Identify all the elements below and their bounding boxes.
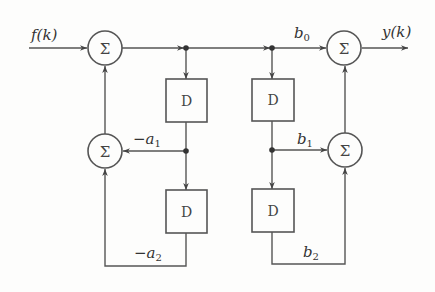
delay-label: D bbox=[267, 203, 278, 219]
junction-dot bbox=[183, 45, 189, 51]
coef-a2-label: −a2 bbox=[134, 244, 162, 263]
junction-dot bbox=[269, 147, 275, 153]
delay-label: D bbox=[267, 92, 278, 108]
coef-a1-label: −a1 bbox=[133, 130, 161, 149]
block-diagram: Σ Σ Σ Σ D D D D f(k) y(k) −a1 −a2 b0 b1 … bbox=[0, 0, 435, 292]
summer-symbol: Σ bbox=[100, 40, 111, 58]
junction-dot bbox=[183, 148, 189, 154]
coef-b1-label: b1 bbox=[297, 130, 313, 149]
input-label: f(k) bbox=[30, 26, 57, 44]
summer-symbol: Σ bbox=[339, 40, 350, 58]
summer-symbol: Σ bbox=[100, 143, 111, 161]
delay-label: D bbox=[181, 93, 192, 109]
coef-b0-label: b0 bbox=[294, 24, 310, 43]
summer-symbol: Σ bbox=[340, 142, 351, 160]
coef-b2-label: b2 bbox=[303, 243, 319, 262]
junction-dot bbox=[269, 45, 275, 51]
delay-label: D bbox=[181, 204, 192, 220]
output-label: y(k) bbox=[381, 23, 411, 41]
